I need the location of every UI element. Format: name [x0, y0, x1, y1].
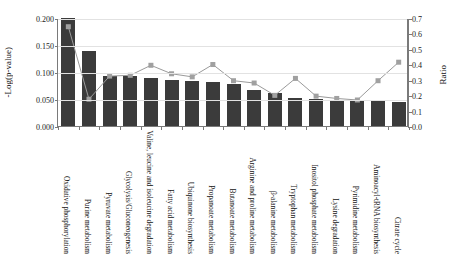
ratio-marker [252, 81, 257, 86]
y-axis-tick-left [55, 100, 58, 101]
y-axis-tick-label-right: 0.5 [412, 45, 422, 54]
gridline [58, 19, 407, 20]
x-axis-label: Valine, leucine and isoleucine degradati… [139, 130, 153, 254]
y-axis-title-right: Ratio [437, 40, 449, 110]
x-axis-label: Butanoate metabolism [222, 130, 236, 254]
x-axis-label: Lysine degradation [325, 130, 339, 254]
y-axis-tick-label-left: 0.150 [36, 42, 54, 51]
x-axis-label: Pyrimidine metabolism [345, 130, 359, 254]
x-axis-label: β-alanine metabolism [263, 130, 277, 254]
y-axis-tick-left [55, 19, 58, 20]
x-axis-label: Pyruvate metabolism [98, 130, 112, 254]
y-axis-tick-left [55, 46, 58, 47]
ratio-marker [190, 74, 195, 79]
ratio-marker [231, 78, 236, 83]
x-axis-label: Inositol phosphate metabolism [304, 130, 318, 254]
x-axis-label: Purine metabolism [77, 130, 91, 254]
x-axis-label: Glycolysis/Gluconeogenesis [118, 130, 132, 254]
gridline [58, 100, 407, 101]
ratio-marker [314, 94, 319, 99]
y-axis-tick-label-right: 0.0 [412, 123, 422, 132]
y-axis-tick-label-right: 0.7 [412, 15, 422, 24]
y-axis-title-right-text: Ratio [438, 65, 448, 85]
ratio-marker [293, 76, 298, 81]
ratio-marker [66, 24, 71, 29]
x-axis-label: Propanoate metabolism [201, 130, 215, 254]
x-axis-labels: Oxidative phosphorylationPurine metaboli… [57, 130, 408, 254]
x-axis-label: Aminoacyl-tRNA biosynthesis [366, 130, 380, 254]
y-axis-tick-label-left: 0.000 [36, 123, 54, 132]
y-axis-title-left-text: -Log(p-value) [3, 47, 13, 97]
ratio-marker [376, 78, 381, 83]
x-axis-label: Fatty acid metabolism [160, 130, 174, 254]
y-axis-tick-label-right: 0.2 [412, 92, 422, 101]
y-axis-tick-label-right: 0.4 [412, 61, 422, 70]
y-axis-tick-label-left: 0.100 [36, 69, 54, 78]
x-axis-label: Arginine and proline metabolism [242, 130, 256, 254]
plot-area: 0.0000.0500.1000.1500.200 [57, 19, 408, 127]
gridline [58, 73, 407, 74]
y-axis-tick-label-right: 0.3 [412, 76, 422, 85]
y-axis-tick-label-right: 0.6 [412, 30, 422, 39]
x-axis-label: Oxidative phosphorylation [56, 130, 70, 254]
x-axis-label: Tryptophan metabolism [283, 130, 297, 254]
y-axis-tick-label-right: 0.1 [412, 107, 422, 116]
ratio-marker [107, 74, 112, 79]
ratio-marker [272, 93, 277, 98]
y-axis-tick-label-left: 0.050 [36, 96, 54, 105]
x-axis-label: Citrate cycle [387, 130, 401, 254]
ratio-marker [396, 60, 401, 65]
chart-container: -Log(p-value) Ratio 0.0000.0500.1000.150… [0, 0, 452, 256]
y-axis-tick-label-left: 0.200 [36, 15, 54, 24]
x-axis-label: Ubiquinone biosynthesis [180, 130, 194, 254]
ratio-line [68, 27, 398, 100]
y-axis-title-left: -Log(p-value) [2, 22, 14, 122]
y-axis-tick-left [55, 73, 58, 74]
gridline [58, 46, 407, 47]
ratio-marker [148, 63, 153, 68]
ratio-marker [210, 62, 215, 67]
